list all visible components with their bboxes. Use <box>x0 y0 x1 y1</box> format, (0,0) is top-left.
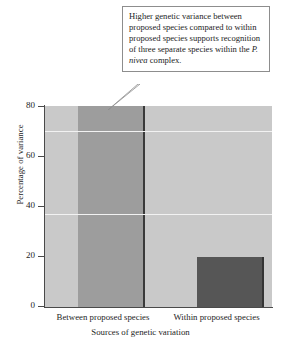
callout-annotation: Higher genetic variance between proposed… <box>122 6 270 72</box>
bar-side-edge <box>143 106 145 307</box>
y-tick-mark-20 <box>38 256 44 257</box>
bar-face <box>197 257 262 307</box>
bar-between-proposed-species[interactable] <box>78 106 143 307</box>
bar-within-proposed-species[interactable] <box>197 257 262 307</box>
gridline-70 <box>45 131 272 132</box>
bar-side-edge <box>262 257 264 307</box>
x-axis-line <box>44 307 273 308</box>
chart-plot-area <box>45 106 272 307</box>
y-axis-title: Percentage of variance <box>16 85 25 245</box>
callout-text-before: Higher genetic variance between proposed… <box>129 11 260 54</box>
gridline-37 <box>45 214 272 215</box>
y-tick-label-40: 40 <box>26 201 35 210</box>
y-tick-label-80: 80 <box>26 101 35 110</box>
callout-tail-icon <box>104 84 140 110</box>
x-axis-title: Sources of genetic variation <box>0 327 281 337</box>
bar-face <box>78 106 143 307</box>
y-tick-mark-0 <box>38 306 44 307</box>
y-tick-label-60: 60 <box>26 151 35 160</box>
y-tick-label-0: 0 <box>31 301 36 310</box>
callout-text-after: complex. <box>148 55 182 65</box>
y-axis-line <box>44 105 45 308</box>
y-tick-mark-60 <box>38 156 44 157</box>
y-tick-mark-80 <box>38 106 44 107</box>
y-tick-mark-40 <box>38 206 44 207</box>
x-tick-label-within-proposed-species: Within proposed species <box>152 312 281 322</box>
y-tick-label-20: 20 <box>26 251 35 260</box>
